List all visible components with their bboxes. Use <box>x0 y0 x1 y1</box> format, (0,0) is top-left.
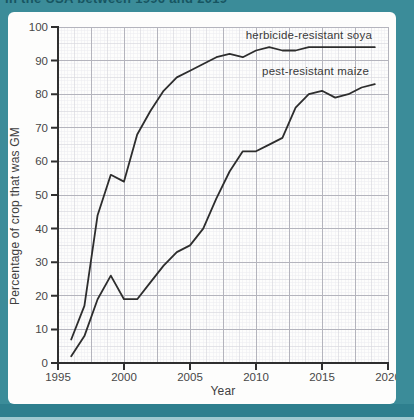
y-tick-label: 60 <box>35 155 48 167</box>
y-tick-label: 50 <box>35 189 48 201</box>
x-tick-label: 2010 <box>243 371 269 383</box>
x-tick-label: 1995 <box>45 371 71 383</box>
frame-band-dark <box>0 404 414 417</box>
caption-fragment: in the USA between 1996 and 2019 <box>5 0 335 7</box>
x-tick-label: 2015 <box>309 371 335 383</box>
y-tick-label: 100 <box>29 21 48 33</box>
grid-lines <box>58 27 388 363</box>
legend-pest-resistant-maize: pest-resistant maize <box>262 65 369 77</box>
x-tick-label: 2000 <box>111 371 137 383</box>
legend-herbicide-resistant-soya: herbicide-resistant soya <box>246 29 372 41</box>
y-tick-label: 0 <box>42 357 48 369</box>
x-axis-title: Year <box>58 384 388 398</box>
x-tick-label: 2005 <box>177 371 203 383</box>
chart-card: 0102030405060708090100199520002005201020… <box>8 12 396 404</box>
y-tick-label: 70 <box>35 122 48 134</box>
y-tick-label: 30 <box>35 256 48 268</box>
y-tick-label: 80 <box>35 88 48 100</box>
textbook-page: in the USA between 1996 and 2019 0102030… <box>0 0 414 420</box>
y-tick-label: 10 <box>35 323 48 335</box>
y-tick-label: 20 <box>35 290 48 302</box>
y-axis-title: Percentage of crop that was GM <box>8 56 28 376</box>
y-tick-label: 40 <box>35 223 48 235</box>
caption-fragment-text: in the USA between 1996 and 2019 <box>5 0 335 7</box>
y-tick-label: 90 <box>35 55 48 67</box>
x-tick-label: 2020 <box>375 371 396 383</box>
